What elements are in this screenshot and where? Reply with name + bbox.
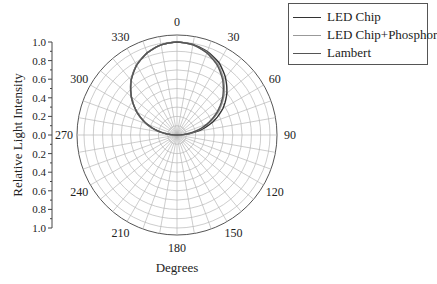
legend-swatch: [293, 53, 321, 54]
svg-text:150: 150: [225, 226, 243, 240]
svg-text:0.2: 0.2: [32, 148, 46, 160]
svg-text:180: 180: [168, 241, 186, 255]
legend-item-lambert: Lambert: [293, 44, 371, 62]
svg-text:30: 30: [228, 30, 240, 44]
svg-text:240: 240: [70, 185, 88, 199]
svg-text:270: 270: [55, 128, 73, 142]
legend-swatch: [293, 35, 321, 36]
svg-text:210: 210: [112, 226, 130, 240]
svg-text:90: 90: [284, 128, 296, 142]
legend-item-led-chip: LED Chip: [293, 8, 381, 26]
svg-text:1.0: 1.0: [32, 36, 46, 48]
svg-text:0.8: 0.8: [32, 55, 46, 67]
svg-text:0.6: 0.6: [32, 185, 46, 197]
svg-text:0: 0: [174, 15, 180, 29]
legend-label: LED Chip: [327, 9, 381, 25]
legend: LED Chip LED Chip+Phosphor Lambert: [288, 3, 428, 65]
svg-text:120: 120: [266, 185, 284, 199]
x-axis-label: Degrees: [156, 260, 199, 275]
svg-text:0.4: 0.4: [32, 166, 46, 178]
legend-label: LED Chip+Phosphor: [327, 27, 437, 43]
legend-label: Lambert: [327, 45, 371, 61]
svg-text:0.2: 0.2: [32, 110, 46, 122]
svg-text:0.0: 0.0: [32, 129, 46, 141]
svg-text:0.6: 0.6: [32, 73, 46, 85]
svg-text:300: 300: [70, 72, 88, 86]
svg-text:60: 60: [269, 72, 281, 86]
svg-text:0.4: 0.4: [32, 92, 46, 104]
y-axis: 1.00.80.60.40.20.00.20.40.60.81.0: [32, 36, 52, 234]
legend-swatch: [293, 17, 321, 18]
svg-text:330: 330: [112, 30, 130, 44]
svg-text:1.0: 1.0: [32, 222, 46, 234]
y-axis-label: Relative Light Intensity: [10, 73, 25, 197]
svg-text:0.8: 0.8: [32, 203, 46, 215]
legend-item-led-chip-phosphor: LED Chip+Phosphor: [293, 26, 437, 44]
